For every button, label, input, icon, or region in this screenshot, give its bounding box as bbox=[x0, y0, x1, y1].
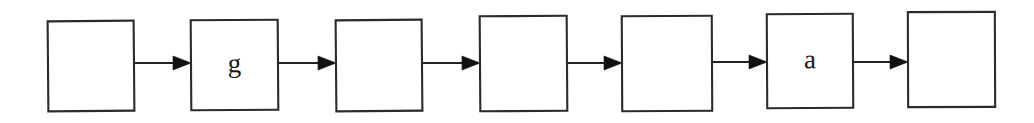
arrowhead-icon bbox=[604, 56, 622, 70]
flowchart-node[interactable] bbox=[480, 16, 568, 112]
connector-arrow bbox=[278, 56, 336, 70]
flowchart-canvas: ga bbox=[0, 0, 1034, 123]
connector-arrow bbox=[853, 55, 908, 69]
flowchart-node[interactable] bbox=[622, 16, 712, 111]
connector-arrow bbox=[422, 56, 480, 70]
flowchart-diagram: ga bbox=[0, 0, 1034, 123]
arrowhead-icon bbox=[890, 55, 908, 69]
flowchart-node[interactable] bbox=[48, 21, 135, 112]
flowchart-node[interactable]: a bbox=[767, 14, 853, 108]
arrowhead-icon bbox=[462, 56, 480, 70]
node-label: g bbox=[228, 48, 242, 78]
connector-arrow bbox=[567, 56, 622, 70]
node-box[interactable] bbox=[908, 12, 995, 107]
flowchart-node[interactable] bbox=[336, 20, 423, 112]
connector-arrow bbox=[134, 56, 191, 70]
flowchart-node[interactable]: g bbox=[191, 20, 279, 111]
arrowhead-icon bbox=[749, 55, 767, 69]
node-box[interactable] bbox=[480, 16, 568, 112]
flowchart-node[interactable] bbox=[908, 12, 995, 107]
node-box[interactable] bbox=[48, 21, 135, 112]
node-label: a bbox=[804, 44, 816, 74]
connector-arrow bbox=[712, 55, 767, 69]
node-box[interactable] bbox=[336, 20, 423, 112]
arrowhead-icon bbox=[318, 56, 336, 70]
node-box[interactable] bbox=[622, 16, 712, 111]
arrowhead-icon bbox=[173, 56, 191, 70]
